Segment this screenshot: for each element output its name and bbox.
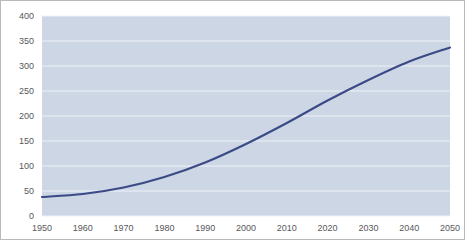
x-tick-label: 2040: [399, 223, 419, 233]
x-tick-label: 2010: [277, 223, 297, 233]
x-tick-label: 2050: [440, 223, 460, 233]
x-axis-tick-labels: 1950196019701980199020002010202020302040…: [32, 223, 460, 233]
x-tick-label: 1960: [73, 223, 93, 233]
x-tick-label: 2020: [318, 223, 338, 233]
x-tick-label: 1980: [154, 223, 174, 233]
x-tick-label: 1990: [195, 223, 215, 233]
y-tick-label: 100: [19, 161, 34, 171]
x-tick-label: 1970: [114, 223, 134, 233]
x-tick-label: 1950: [32, 223, 52, 233]
y-tick-label: 200: [19, 111, 34, 121]
line-chart: 050100150200250300350400 195019601970198…: [1, 1, 465, 240]
y-axis-tick-labels: 050100150200250300350400: [19, 11, 34, 221]
y-tick-label: 400: [19, 11, 34, 21]
y-tick-label: 150: [19, 136, 34, 146]
y-tick-label: 300: [19, 61, 34, 71]
x-tick-label: 2030: [358, 223, 378, 233]
x-tick-label: 2000: [236, 223, 256, 233]
y-tick-label: 50: [24, 186, 34, 196]
chart-container: 050100150200250300350400 195019601970198…: [0, 0, 465, 240]
y-tick-label: 250: [19, 86, 34, 96]
y-tick-label: 350: [19, 36, 34, 46]
y-tick-label: 0: [29, 211, 34, 221]
